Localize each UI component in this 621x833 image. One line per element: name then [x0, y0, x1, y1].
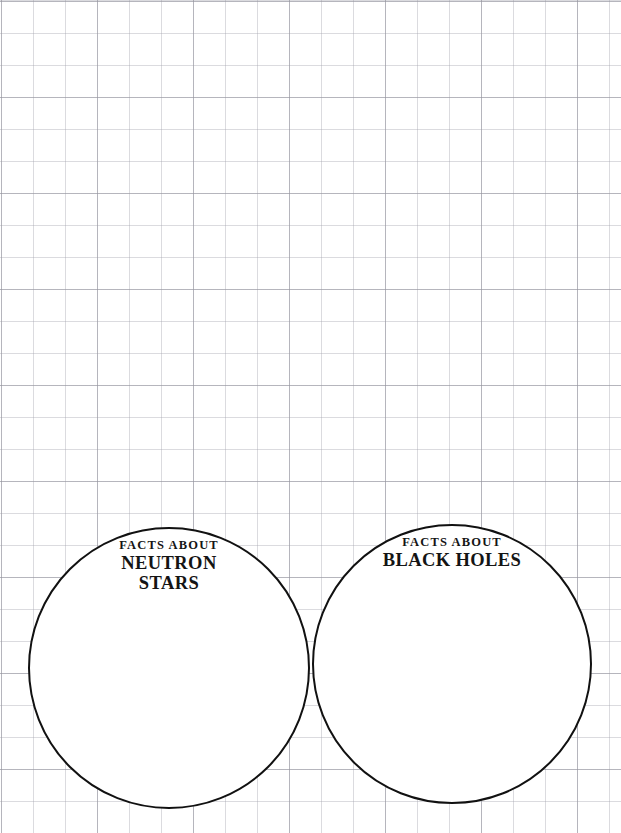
venn-circle-left-title-line-1: NEUTRON: [30, 553, 308, 573]
venn-circle-left-title: NEUTRON STARS: [30, 553, 308, 593]
venn-circle-right-title-line-1: BLACK HOLES: [314, 550, 590, 570]
venn-circle-right[interactable]: FACTS ABOUT BLACK HOLES: [312, 524, 592, 804]
venn-circle-right-heading: FACTS ABOUT BLACK HOLES: [314, 535, 590, 570]
venn-circle-left-title-line-2: STARS: [30, 573, 308, 593]
worksheet-page: FACTS ABOUT NEUTRON STARS FACTS ABOUT BL…: [0, 0, 621, 833]
venn-circle-left-eyebrow: FACTS ABOUT: [30, 538, 308, 552]
venn-circle-left[interactable]: FACTS ABOUT NEUTRON STARS: [28, 527, 310, 809]
venn-circle-left-heading: FACTS ABOUT NEUTRON STARS: [30, 538, 308, 593]
venn-circle-right-eyebrow: FACTS ABOUT: [314, 535, 590, 549]
venn-circle-right-title: BLACK HOLES: [314, 550, 590, 570]
